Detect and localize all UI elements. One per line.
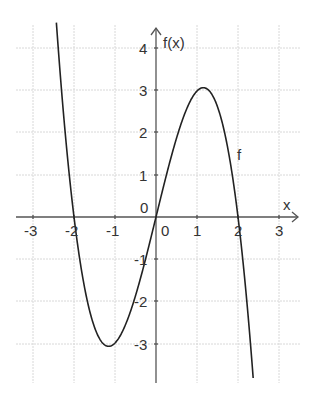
axes [16, 28, 298, 383]
curve-label: f [237, 146, 242, 163]
y-tick-label: 2 [139, 124, 147, 141]
y-tick-label: 3 [139, 82, 147, 99]
y-axis-label: f(x) [163, 34, 185, 51]
function-plot: -3 -2 -1 1 2 3 4 3 2 1 -1 -2 -3 0 0 f(x)… [0, 0, 314, 405]
y-tick-label: -1 [134, 251, 147, 268]
x-tick-label: -2 [65, 222, 78, 239]
origin-label: 0 [140, 199, 148, 216]
y-tick-label: 1 [139, 167, 147, 184]
x-tick-label: 2 [234, 222, 242, 239]
grid [16, 25, 300, 383]
x-tick-label: 1 [193, 222, 201, 239]
y-tick-label: -2 [134, 293, 147, 310]
x-tick-label: -1 [106, 222, 119, 239]
x-tick-label: 3 [275, 222, 283, 239]
x-axis-label: x [283, 196, 291, 213]
x-tick-label: -3 [24, 222, 37, 239]
y-tick-label: -3 [134, 336, 147, 353]
y-tick-labels: 4 3 2 1 -1 -2 -3 [134, 40, 147, 353]
function-curve [56, 23, 253, 378]
y-tick-label: 4 [139, 40, 147, 57]
origin-label-x: 0 [161, 222, 169, 239]
